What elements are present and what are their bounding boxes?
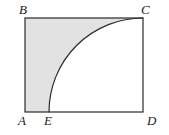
vertex-label-b: B [19,3,27,16]
vertex-label-d: D [147,114,156,127]
vertex-label-c: C [141,3,150,16]
geometry-figure: B C A E D [0,0,169,135]
vertex-label-e: E [44,114,52,127]
vertex-label-a: A [18,114,26,127]
